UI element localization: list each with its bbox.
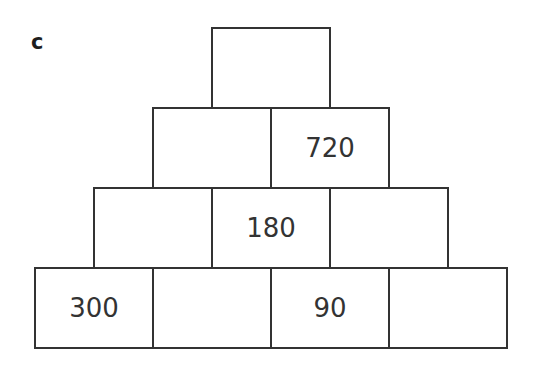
pyramid-cell-r1-c1: 720 [270, 107, 390, 189]
pyramid-cell-r2-c1: 180 [211, 187, 331, 269]
pyramid-cell-r2-c2 [329, 187, 449, 269]
pyramid-cell-r3-c1 [152, 267, 272, 349]
pyramid-cell-r3-c3 [388, 267, 508, 349]
pyramid-cell-r1-c0 [152, 107, 272, 189]
question-label: c [31, 30, 43, 54]
pyramid-cell-r3-c0: 300 [34, 267, 154, 349]
pyramid-cell-r2-c0 [93, 187, 213, 269]
pyramid-cell-r0-c0 [211, 27, 331, 109]
pyramid-cell-r3-c2: 90 [270, 267, 390, 349]
